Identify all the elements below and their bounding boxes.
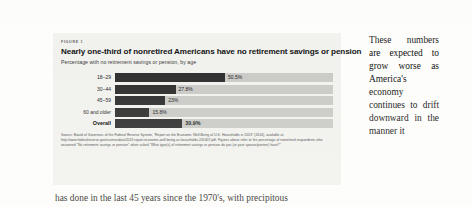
bar-fill [115, 85, 176, 94]
bar-fill [115, 108, 149, 117]
figure-subtitle: Percentage with no retirement savings or… [61, 58, 333, 66]
bar-value-label: 23% [165, 96, 178, 105]
bar-value-label: 30.9% [182, 119, 200, 128]
bar-track: 27.8% [115, 85, 333, 94]
body-paragraph-right: These numbers are expected to grow worse… [369, 34, 439, 138]
bar-track: 30.9% [115, 119, 333, 128]
bar-fill [115, 73, 225, 82]
bar-fill [115, 119, 182, 128]
bar-row: 18–2950.5% [61, 73, 333, 82]
bar-track: 50.5% [115, 73, 333, 82]
bar-row: 45–5923% [61, 96, 333, 105]
bar-category-label: 45–59 [61, 96, 115, 105]
bar-fill [115, 96, 165, 105]
bar-track: 15.8% [115, 108, 333, 117]
bar-value-label: 27.8% [176, 85, 193, 94]
document-page: FIGURE 1 Nearly one-third of nonretired … [0, 0, 472, 207]
bar-row: 60 and older15.8% [61, 108, 333, 117]
bar-category-label: 60 and older [61, 108, 115, 117]
bar-category-label: 18–29 [61, 73, 115, 82]
bar-value-label: 50.5% [225, 73, 242, 82]
bar-category-label: 30–44 [61, 85, 115, 94]
figure-source-note: Source: Board of Governors of the Federa… [61, 133, 333, 147]
figure-number-label: FIGURE 1 [61, 40, 333, 45]
figure-panel: FIGURE 1 Nearly one-third of nonretired … [53, 33, 341, 185]
bar-value-label: 15.8% [149, 108, 166, 117]
bar-category-label: Overall [61, 119, 115, 128]
bar-chart: 18–2950.5%30–4427.8%45–5923%60 and older… [61, 73, 333, 128]
bar-track: 23% [115, 96, 333, 105]
body-text-right-column: These numbers are expected to grow worse… [369, 34, 439, 138]
bar-row: Overall30.9% [61, 119, 333, 128]
figure-title: Nearly one-third of nonretired Americans… [61, 47, 333, 57]
body-text-bottom-line: has done in the last 45 years since the … [55, 192, 355, 205]
bar-row: 30–4427.8% [61, 85, 333, 94]
